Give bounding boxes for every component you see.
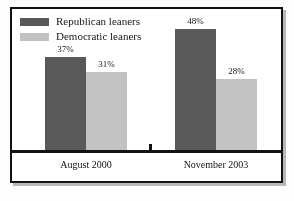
bar-value-august-2000-republican: 37% <box>45 44 86 54</box>
plot-area: Republican leaners Democratic leaners 37… <box>12 9 281 181</box>
bar-november-2003-democratic <box>216 79 257 150</box>
bar-august-2000-democratic <box>86 72 127 150</box>
bar-november-2003-republican <box>175 29 216 150</box>
chart-page: Republican leaners Democratic leaners 37… <box>0 0 294 201</box>
bar-value-november-2003-republican: 48% <box>175 16 216 26</box>
bar-august-2000-republican <box>45 57 86 150</box>
bar-value-august-2000-democratic: 31% <box>86 59 127 69</box>
category-label-august-2000: August 2000 <box>26 159 146 170</box>
category-label-november-2003: November 2003 <box>156 159 276 170</box>
chart-frame: Republican leaners Democratic leaners 37… <box>10 7 283 183</box>
bar-value-november-2003-democratic: 28% <box>216 66 257 76</box>
category-label-band: August 2000 November 2003 <box>12 153 281 181</box>
bars-layer: 37% 31% 48% 28% <box>12 9 281 150</box>
x-axis-tick <box>149 144 152 150</box>
